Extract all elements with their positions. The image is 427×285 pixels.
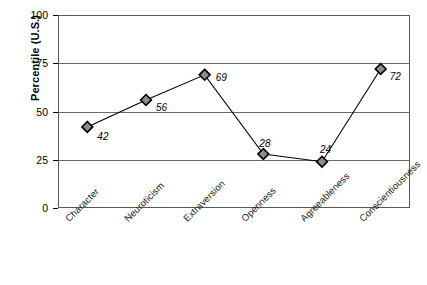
x-tick-label: Character	[63, 186, 101, 224]
x-tick-label: Extraversion	[181, 178, 227, 224]
x-tick-label: Agreeableness	[298, 170, 352, 224]
chart-container: Percentile (U.S.) 0255075100 42566928247…	[0, 0, 427, 285]
x-axis-ticks: CharacterNeuroticismExtraversionOpenness…	[0, 0, 427, 285]
x-tick-label: Conscientiousness	[357, 158, 422, 223]
x-tick-label: Neuroticism	[122, 180, 166, 224]
x-tick-label: Openness	[239, 185, 278, 224]
